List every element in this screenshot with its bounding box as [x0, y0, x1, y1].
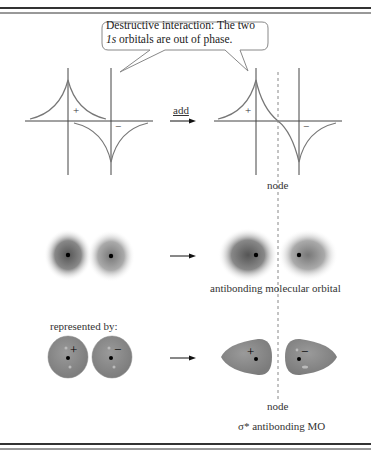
sigma-star-label: σ* antibonding MO	[238, 420, 325, 432]
plus-sign-sigma: +	[247, 344, 254, 360]
left-wavefunction-plot	[25, 68, 153, 175]
nucleus-dot	[109, 254, 113, 258]
plus-sign-left: +	[73, 104, 79, 116]
node-label-bottom: node	[267, 400, 288, 412]
add-label: add	[173, 104, 189, 116]
represented-by-label: represented by:	[50, 320, 118, 332]
lobe-minus	[285, 339, 337, 375]
callout-line2-rest: orbitals are out of phase.	[116, 33, 232, 45]
plus-sign-lobe: +	[70, 342, 77, 358]
node-label-top: node	[267, 179, 288, 191]
callout-line2: 1s orbitals are out of phase.	[106, 32, 264, 46]
atomic-orbital-clouds	[44, 229, 135, 282]
bottom-border	[0, 444, 371, 449]
nucleus-dot	[297, 253, 301, 257]
sigma-star-lobes	[221, 339, 337, 375]
arrow-middle	[170, 254, 196, 259]
minus-sign-sigma: −	[301, 344, 308, 360]
callout-line1: Destructive interaction: The two	[106, 18, 264, 32]
add-arrow	[170, 119, 196, 124]
arrow-bottom	[170, 356, 196, 361]
cloud-b	[278, 229, 338, 281]
nucleus-dot	[66, 253, 70, 257]
callout-1s: 1s	[106, 33, 116, 45]
callout-text: Destructive interaction: The two 1s orbi…	[106, 18, 264, 46]
minus-sign-lobe: −	[114, 342, 121, 358]
minus-sign-right: −	[303, 120, 309, 132]
cloud-a	[218, 228, 278, 282]
plus-sign-right: +	[245, 104, 251, 116]
top-border	[0, 8, 371, 13]
nucleus-dot	[254, 253, 258, 257]
antibonding-mo-label: antibonding molecular orbital	[210, 282, 341, 294]
minus-sign-left: −	[115, 120, 121, 132]
diagram-canvas	[0, 0, 371, 458]
